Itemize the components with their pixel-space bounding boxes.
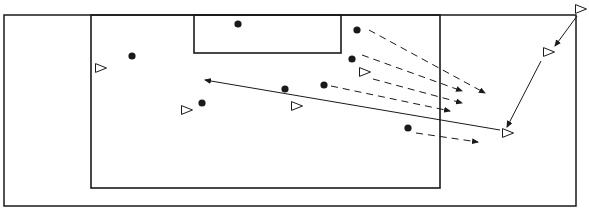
player-triangle-icon [182, 106, 193, 115]
player-dot-icon [198, 99, 205, 106]
player-dot-icon [320, 81, 327, 88]
player-dot-icon [128, 52, 135, 59]
attacking-players [128, 20, 411, 131]
pass-arrows [205, 16, 577, 130]
player-dot-icon [353, 26, 360, 33]
player-dot-icon [348, 55, 355, 62]
field-boundary [4, 15, 576, 206]
dashed-run-arrow [331, 86, 450, 111]
dashed-run-arrow [373, 79, 462, 103]
pass-arrow [555, 16, 577, 46]
player-triangle-icon [96, 64, 107, 73]
dashed-run-arrow [369, 30, 485, 93]
goal-area [194, 15, 341, 53]
player-dot-icon [404, 124, 411, 131]
player-triangle-icon [544, 48, 555, 57]
player-triangle-icon [360, 68, 371, 77]
player-dot-icon [234, 20, 241, 27]
pass-arrow [507, 61, 541, 127]
player-triangle-icon [292, 102, 303, 111]
player-dot-icon [281, 85, 288, 92]
dashed-run-arrow [416, 133, 478, 142]
pass-arrow [205, 80, 500, 130]
soccer-drill-diagram [0, 0, 589, 215]
penalty-area [91, 15, 440, 188]
dashed-run-arrow [362, 55, 462, 91]
player-triangle-icon [503, 129, 514, 138]
player-triangle-icon [576, 5, 587, 14]
